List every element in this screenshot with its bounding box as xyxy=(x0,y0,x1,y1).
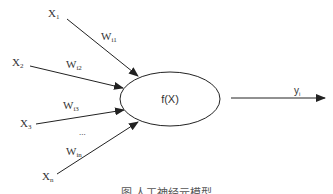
input-arrow-3 xyxy=(36,110,124,124)
weight-label-2: Wi2 xyxy=(66,58,82,72)
inputs-ellipsis: ... xyxy=(79,127,86,137)
weight-label-n: Win xyxy=(66,145,82,159)
input-label-1: X1 xyxy=(48,7,60,21)
neuron-function-label: f(X) xyxy=(161,93,179,105)
figure-caption: 图 人工神经元模型 xyxy=(0,188,333,194)
output-label: yi xyxy=(294,85,300,97)
weight-label-3: Wi3 xyxy=(63,99,79,113)
neuron-diagram: f(X) yi X1 X2 X3 Xn Wi1 Wi2 Wi3 Win ... xyxy=(0,0,333,194)
input-label-3: X3 xyxy=(20,117,32,131)
input-label-n: Xn xyxy=(42,170,54,184)
input-label-2: X2 xyxy=(12,56,24,70)
weight-label-1: Wi1 xyxy=(101,30,117,44)
